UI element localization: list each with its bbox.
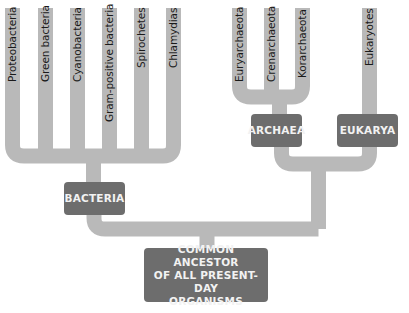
leaf-crenarchaeota: Crenarchaeota <box>265 6 277 82</box>
box-archaea-label: ARCHAEA <box>248 124 306 137</box>
branch-root-join <box>94 213 319 229</box>
leaf-proteobacteria: Proteobacteria <box>6 7 18 82</box>
box-archaea: ARCHAEA <box>251 114 302 147</box>
root-line-1: COMMON ANCESTOR <box>144 243 268 269</box>
leaf-spirochetes: Spirochetes <box>135 7 147 68</box>
box-bacteria-label: BACTERIA <box>65 192 125 205</box>
leaf-eukaryotes: Eukaryotes <box>363 8 375 66</box>
root-line-2: OF ALL PRESENT-DAY <box>144 269 268 295</box>
box-common-ancestor: COMMON ANCESTOR OF ALL PRESENT-DAY ORGAN… <box>144 248 268 302</box>
box-eukarya: EUKARYA <box>337 114 398 147</box>
branch-proteobacteria <box>13 8 174 156</box>
leaf-euryarchaeota: Euryarchaeota <box>233 7 245 82</box>
root-line-3: ORGANISMS <box>169 295 243 308</box>
leaf-chlamydias: Chlamydias <box>167 8 179 68</box>
leaf-green-bacteria: Green bacteria <box>39 5 51 82</box>
leaf-korarchaeota: Korarchaeota <box>296 9 308 78</box>
leaf-cyanobacteria: Cyanobacteria <box>71 7 83 82</box>
box-bacteria: BACTERIA <box>64 182 125 215</box>
box-eukarya-label: EUKARYA <box>340 124 396 137</box>
leaf-gram-positive-bacteria: Gram-positive bacteria <box>103 4 115 122</box>
branch-archaea-eukarya <box>282 145 370 164</box>
